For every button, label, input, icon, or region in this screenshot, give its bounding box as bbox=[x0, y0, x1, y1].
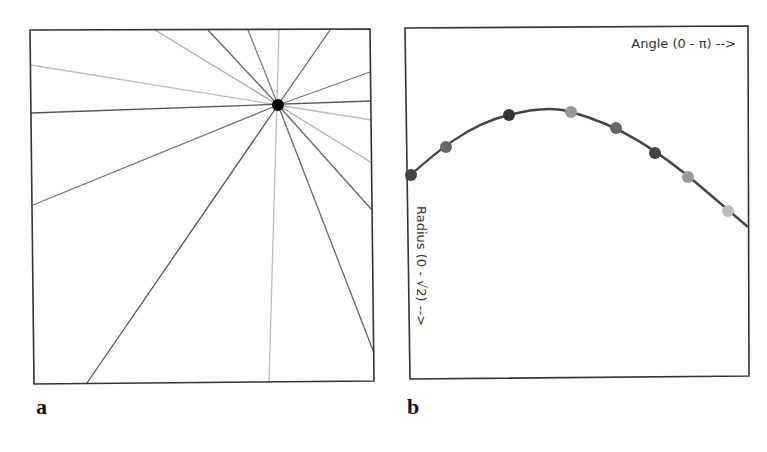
panel-a-border bbox=[30, 29, 374, 384]
hough-line bbox=[33, 105, 278, 205]
parameter-dot bbox=[610, 122, 622, 134]
hough-line bbox=[278, 72, 370, 105]
figure: Angle (0 - π) --> Radius (0 - √2) --> bbox=[0, 0, 767, 452]
parameter-dot bbox=[503, 109, 515, 121]
panel-b-border bbox=[405, 26, 749, 379]
panel-a-image-space bbox=[30, 29, 374, 384]
hough-line bbox=[278, 105, 372, 210]
x-axis-label: Angle (0 - π) --> bbox=[631, 36, 736, 51]
hough-line bbox=[248, 30, 278, 105]
panel-b-parameter-space: Angle (0 - π) --> Radius (0 - √2) --> bbox=[405, 26, 749, 379]
sinusoid-curve bbox=[406, 109, 748, 227]
line-set bbox=[31, 30, 374, 383]
hough-line bbox=[278, 30, 330, 105]
hough-line bbox=[278, 105, 372, 163]
hough-line bbox=[278, 105, 374, 353]
parameter-dot bbox=[405, 169, 417, 181]
parameter-dot bbox=[722, 205, 734, 217]
hough-line bbox=[31, 65, 278, 105]
panel-label-b: b bbox=[407, 394, 419, 420]
hough-line bbox=[155, 30, 278, 105]
parameter-dot bbox=[682, 171, 694, 183]
y-axis-label: Radius (0 - √2) --> bbox=[414, 206, 429, 326]
panel-label-a: a bbox=[36, 394, 47, 420]
hough-line bbox=[278, 105, 371, 120]
dot-set bbox=[405, 106, 734, 217]
edge-point bbox=[272, 99, 284, 111]
parameter-dot bbox=[440, 141, 452, 153]
parameter-dot bbox=[649, 147, 661, 159]
hough-line bbox=[269, 30, 279, 382]
parameter-dot bbox=[565, 106, 577, 118]
hough-line bbox=[87, 105, 278, 383]
hough-line bbox=[208, 30, 278, 105]
